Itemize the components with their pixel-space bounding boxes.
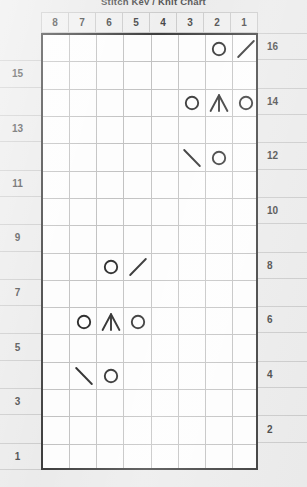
stitch-cell-r16-c2[interactable] [206, 35, 233, 62]
row-numbers-left: 15131197531 [0, 33, 41, 470]
grid-line-vertical [151, 35, 152, 468]
right-leaning-decrease-icon [235, 38, 257, 60]
stitch-cell-r4-c7[interactable] [70, 363, 97, 390]
row-number-5: 5 [0, 333, 41, 360]
row-number-2: 2 [258, 415, 307, 442]
row-number-spacer [258, 279, 307, 306]
right-leaning-decrease-icon [127, 256, 149, 278]
row-number-spacer [258, 60, 307, 87]
column-header-2: 2 [203, 12, 230, 33]
stitch-cell-r12-c2[interactable] [206, 144, 233, 171]
stitch-cell-r12-c3[interactable] [179, 144, 206, 171]
stitch-cell-r6-c6[interactable] [97, 308, 124, 335]
yarn-over-icon [235, 92, 257, 114]
stitch-cell-r8-c5[interactable] [124, 254, 151, 281]
row-number-15: 15 [0, 60, 41, 87]
column-header-7: 7 [68, 12, 95, 33]
row-number-16: 16 [258, 33, 307, 60]
row-number-1: 1 [0, 443, 41, 470]
row-number-spacer [258, 443, 307, 470]
column-header-3: 3 [176, 12, 203, 33]
yarn-over-icon [127, 311, 149, 333]
row-number-spacer [0, 142, 41, 169]
yarn-over-icon [208, 147, 230, 169]
yarn-over-icon [100, 256, 122, 278]
row-number-spacer [0, 415, 41, 442]
row-number-13: 13 [0, 115, 41, 142]
grid-line-vertical [96, 35, 97, 468]
column-header-5: 5 [122, 12, 149, 33]
grid-line-vertical [69, 35, 70, 468]
row-number-11: 11 [0, 170, 41, 197]
row-number-spacer [258, 388, 307, 415]
column-header-4: 4 [149, 12, 176, 33]
row-number-spacer [0, 361, 41, 388]
grid-line-vertical [123, 35, 124, 468]
centered-double-decrease-icon [208, 92, 230, 114]
yarn-over-icon [73, 311, 95, 333]
row-number-spacer [258, 170, 307, 197]
row-number-9: 9 [0, 224, 41, 251]
stitch-grid[interactable] [41, 33, 258, 470]
row-number-14: 14 [258, 88, 307, 115]
row-number-spacer [258, 333, 307, 360]
grid-line-horizontal [43, 416, 256, 417]
left-leaning-decrease-icon [73, 365, 95, 387]
stitch-cell-r16-c1[interactable] [233, 35, 260, 62]
column-header-8: 8 [41, 12, 68, 33]
row-number-spacer [258, 115, 307, 142]
stitch-cell-r8-c6[interactable] [97, 254, 124, 281]
row-number-spacer [258, 224, 307, 251]
row-number-spacer [0, 197, 41, 224]
row-number-spacer [0, 306, 41, 333]
row-number-3: 3 [0, 388, 41, 415]
chart-page: Stitch Key / Knit Chart 87654321 1513119… [0, 0, 307, 487]
row-number-spacer [0, 33, 41, 60]
row-number-4: 4 [258, 361, 307, 388]
yarn-over-icon [181, 92, 203, 114]
column-header-row: 87654321 [41, 12, 258, 33]
grid-line-horizontal [43, 444, 256, 445]
row-number-7: 7 [0, 279, 41, 306]
grid-line-horizontal [43, 198, 256, 199]
row-number-10: 10 [258, 197, 307, 224]
row-number-spacer [0, 88, 41, 115]
stitch-cell-r6-c7[interactable] [70, 308, 97, 335]
stitch-cell-r14-c2[interactable] [206, 90, 233, 117]
yarn-over-icon [208, 38, 230, 60]
row-number-12: 12 [258, 142, 307, 169]
stitch-cell-r14-c3[interactable] [179, 90, 206, 117]
column-header-6: 6 [95, 12, 122, 33]
centered-double-decrease-icon [100, 311, 122, 333]
row-number-6: 6 [258, 306, 307, 333]
yarn-over-icon [100, 365, 122, 387]
stitch-cell-r14-c1[interactable] [233, 90, 260, 117]
left-leaning-decrease-icon [181, 147, 203, 169]
grid-line-horizontal [43, 225, 256, 226]
row-number-spacer [0, 252, 41, 279]
stitch-cell-r6-c5[interactable] [124, 308, 151, 335]
row-numbers-right: 161412108642 [258, 33, 307, 470]
page-title: Stitch Key / Knit Chart [0, 0, 307, 5]
row-number-8: 8 [258, 252, 307, 279]
stitch-cell-r4-c6[interactable] [97, 363, 124, 390]
column-header-1: 1 [230, 12, 258, 33]
